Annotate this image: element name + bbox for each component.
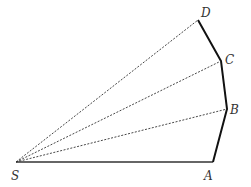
label-B: B (229, 103, 239, 117)
polygon-path-ABCD (198, 20, 227, 162)
label-A: A (203, 169, 213, 183)
geometry-diagram: S A B C D (0, 0, 251, 187)
dashed-segment-SD (16, 20, 198, 162)
label-D: D (200, 6, 211, 20)
dashed-segment-SC (16, 61, 221, 162)
dashed-segment-SB (16, 109, 227, 162)
label-S: S (11, 169, 19, 183)
label-C: C (225, 53, 234, 67)
